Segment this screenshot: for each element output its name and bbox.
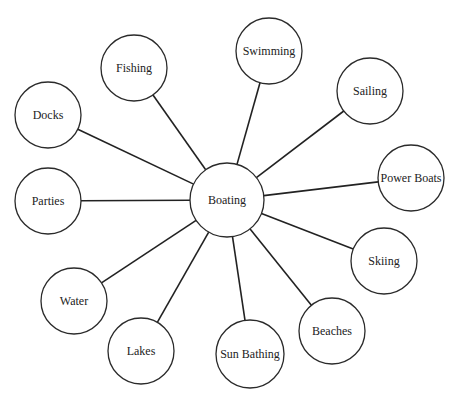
nodes: BoatingFishingSwimmingSailingPower Boats… xyxy=(15,18,444,388)
edge-boating-fishing xyxy=(153,95,206,170)
node-label: Docks xyxy=(33,108,64,122)
node-label: Sailing xyxy=(353,84,387,98)
edge-boating-lakes xyxy=(157,232,208,322)
node-label: Fishing xyxy=(116,61,152,75)
node-docks: Docks xyxy=(15,82,81,148)
edge-boating-swimming xyxy=(237,83,260,165)
node-fishing: Fishing xyxy=(101,35,167,101)
node-label: Beaches xyxy=(312,324,352,338)
node-beaches: Beaches xyxy=(299,298,365,364)
concept-web-diagram: BoatingFishingSwimmingSailingPower Boats… xyxy=(0,0,460,405)
node-label: Water xyxy=(60,294,88,308)
node-label: Parties xyxy=(32,194,65,208)
node-label: Sun Bathing xyxy=(220,347,280,361)
node-skiing: Skiing xyxy=(351,228,417,294)
edge-boating-sailing xyxy=(256,111,343,178)
node-label: Skiing xyxy=(368,254,399,268)
node-label: Lakes xyxy=(127,344,156,358)
node-parties: Parties xyxy=(15,168,81,234)
edge-boating-beaches xyxy=(250,229,311,305)
node-swimming: Swimming xyxy=(236,18,302,84)
edge-boating-skiing xyxy=(262,213,354,249)
node-power-boats: Power Boats xyxy=(378,145,444,211)
node-sun-bathing: Sun Bathing xyxy=(216,320,284,388)
node-water: Water xyxy=(41,268,107,334)
node-lakes: Lakes xyxy=(108,318,174,384)
edge-boating-docks xyxy=(78,129,194,184)
edge-boating-sun-bathing xyxy=(233,237,246,321)
node-sailing: Sailing xyxy=(337,58,403,124)
edge-boating-power-boats xyxy=(264,182,379,196)
node-label: Swimming xyxy=(243,44,296,58)
edge-boating-water xyxy=(102,220,197,282)
center-node-boating: Boating xyxy=(190,163,264,237)
edge-boating-parties xyxy=(81,200,190,201)
node-label: Boating xyxy=(208,193,246,207)
node-label: Power Boats xyxy=(381,171,442,185)
